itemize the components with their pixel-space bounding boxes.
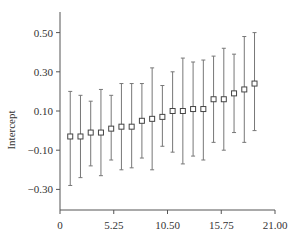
square-marker: [211, 97, 216, 102]
data-point: [88, 101, 93, 166]
data-point: [232, 54, 237, 132]
square-marker: [201, 107, 206, 112]
data-point: [221, 48, 226, 150]
square-marker: [191, 107, 196, 112]
square-marker: [150, 116, 155, 121]
square-marker: [252, 81, 257, 86]
y-tick-label: −0.30: [28, 183, 54, 195]
square-marker: [170, 109, 175, 114]
square-marker: [119, 124, 124, 129]
data-point: [211, 56, 216, 142]
data-series: [68, 33, 257, 186]
x-tick-label: 10.50: [155, 219, 180, 231]
data-point: [119, 84, 124, 170]
square-marker: [221, 97, 226, 102]
data-point: [78, 95, 83, 177]
square-marker: [232, 91, 237, 96]
y-tick-label: 0.50: [34, 27, 54, 39]
data-point: [160, 86, 165, 147]
square-marker: [98, 130, 103, 135]
square-marker: [78, 134, 83, 139]
y-tick-label: −0.10: [28, 144, 54, 156]
y-tick-label: 0.10: [34, 105, 54, 117]
square-marker: [160, 114, 165, 119]
data-point: [170, 72, 175, 152]
square-marker: [88, 130, 93, 135]
data-point: [201, 60, 206, 160]
data-point: [68, 91, 73, 185]
data-point: [252, 33, 257, 131]
data-point: [150, 68, 155, 170]
data-point: [191, 62, 196, 156]
x-tick-label: 21.00: [263, 219, 288, 231]
square-marker: [68, 134, 73, 139]
data-point: [139, 84, 144, 158]
square-marker: [139, 118, 144, 123]
y-axis-label: Intercept: [5, 110, 17, 149]
y-tick-label: 0.30: [34, 66, 54, 78]
square-marker: [242, 87, 247, 92]
x-axis: 05.2510.5015.7521.00: [57, 210, 288, 231]
square-marker: [129, 124, 134, 129]
data-point: [242, 37, 247, 143]
errorbar-chart: 0.500.300.10−0.10−0.30 05.2510.5015.7521…: [0, 0, 301, 240]
square-marker: [109, 126, 114, 131]
square-marker: [180, 109, 185, 114]
y-axis: 0.500.300.10−0.10−0.30: [28, 12, 60, 210]
x-tick-label: 5.25: [104, 219, 124, 231]
x-tick-label: 0: [57, 219, 63, 231]
data-point: [129, 84, 134, 168]
x-tick-label: 15.75: [209, 219, 234, 231]
data-point: [180, 58, 185, 164]
data-point: [109, 95, 114, 160]
data-point: [98, 89, 103, 175]
